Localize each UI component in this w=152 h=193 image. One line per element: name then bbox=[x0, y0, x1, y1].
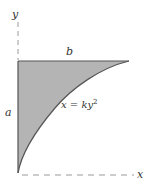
diagram-canvas bbox=[0, 0, 152, 193]
parabolic-area-diagram: y x a b x = ky2 bbox=[0, 0, 152, 193]
width-label-b: b bbox=[66, 46, 73, 57]
y-axis-label: y bbox=[12, 9, 18, 20]
x-axis-label: x bbox=[137, 169, 143, 180]
curve-equation-base: x = ky bbox=[61, 99, 93, 110]
shaded-region bbox=[18, 61, 129, 173]
curve-equation-exponent: 2 bbox=[93, 98, 97, 106]
curve-equation-label: x = ky2 bbox=[61, 99, 98, 110]
height-label-a: a bbox=[5, 107, 12, 118]
